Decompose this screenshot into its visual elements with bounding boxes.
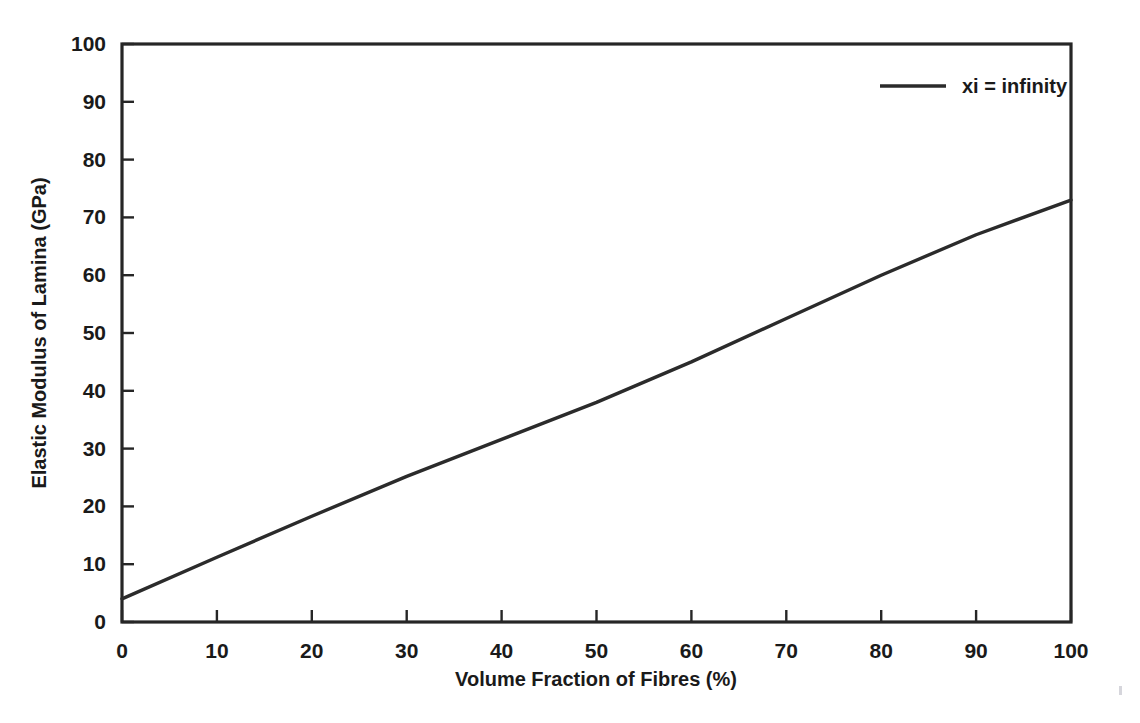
y-tick-label: 80 xyxy=(83,148,106,171)
scan-artifact-speck xyxy=(1119,686,1122,695)
y-tick-label: 60 xyxy=(83,263,106,286)
line-chart-svg: 0102030405060708090100 01020304050607080… xyxy=(0,0,1140,723)
y-tick-label: 50 xyxy=(83,321,106,344)
x-tick-label: 70 xyxy=(775,639,798,662)
y-tick-label: 20 xyxy=(83,494,106,517)
y-tick-label: 0 xyxy=(94,610,106,633)
chart-figure: 0102030405060708090100 01020304050607080… xyxy=(0,0,1140,723)
x-tick-label: 0 xyxy=(116,639,128,662)
x-axis-title: Volume Fraction of Fibres (%) xyxy=(455,668,737,690)
x-tick-label: 30 xyxy=(395,639,418,662)
x-tick-label: 80 xyxy=(870,639,893,662)
figure-background xyxy=(0,0,1140,723)
y-axis-title: Elastic Modulus of Lamina (GPa) xyxy=(28,177,50,488)
y-tick-label: 10 xyxy=(83,552,106,575)
y-tick-label: 40 xyxy=(83,379,106,402)
y-tick-label: 90 xyxy=(83,90,106,113)
x-tick-label: 60 xyxy=(680,639,703,662)
y-tick-label: 30 xyxy=(83,437,106,460)
y-tick-label: 70 xyxy=(83,205,106,228)
x-tick-label: 90 xyxy=(964,639,987,662)
x-tick-label: 20 xyxy=(300,639,323,662)
y-tick-label: 100 xyxy=(71,32,106,55)
legend-entry-label: xi = infinity xyxy=(962,75,1068,97)
x-tick-label: 100 xyxy=(1053,639,1088,662)
x-tick-label: 50 xyxy=(585,639,608,662)
x-tick-label: 40 xyxy=(490,639,513,662)
x-tick-label: 10 xyxy=(205,639,228,662)
